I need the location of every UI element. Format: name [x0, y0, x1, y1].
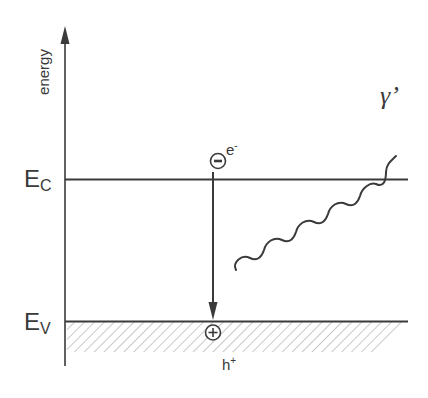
- band-diagram: energy EC EV e- h+ γ’: [0, 0, 428, 398]
- valence-band-label: EV: [24, 308, 51, 337]
- hole-label: h+: [222, 355, 236, 373]
- transition-arrow: [209, 172, 218, 320]
- photon-wave-icon: [235, 156, 396, 270]
- energy-axis: [61, 26, 70, 366]
- axis-arrowhead-icon: [61, 26, 70, 44]
- conduction-band-label: EC: [24, 165, 52, 194]
- electron-icon: [211, 154, 226, 169]
- hole-icon: [206, 325, 221, 340]
- arrow-down-icon: [209, 302, 218, 320]
- photon-label: γ’: [380, 81, 399, 110]
- valence-band-hatching: [67, 322, 412, 354]
- axis-label: energy: [35, 49, 52, 95]
- electron-label: e-: [226, 140, 238, 158]
